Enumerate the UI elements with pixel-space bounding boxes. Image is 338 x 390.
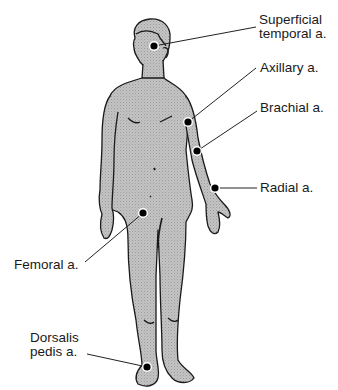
- label-axillary: Axillary a.: [260, 61, 319, 75]
- pulse-points-diagram: Superficial temporal a. Axillary a. Brac…: [0, 0, 338, 390]
- label-text: Brachial a.: [260, 101, 324, 115]
- leader-dorsalis-pedis: [87, 354, 147, 367]
- leader-axillary: [188, 68, 256, 122]
- label-text: Axillary a.: [260, 61, 319, 75]
- label-text: Radial a.: [260, 181, 313, 195]
- arm-right: [186, 96, 230, 234]
- label-text: Superficial: [259, 13, 327, 27]
- body-silhouette: [99, 19, 230, 386]
- label-text: pedis a.: [30, 345, 79, 359]
- dot-dorsalis-pedis: [142, 362, 152, 372]
- label-femoral: Femoral a.: [14, 258, 79, 272]
- label-radial: Radial a.: [260, 181, 313, 195]
- dot-brachial: [192, 146, 202, 156]
- label-text: Dorsalis: [30, 331, 79, 345]
- dot-radial: [210, 183, 220, 193]
- label-text: Femoral a.: [14, 258, 79, 272]
- label-superficial-temporal: Superficial temporal a.: [259, 13, 327, 41]
- dot-axillary: [183, 117, 193, 127]
- dot-superficial-temporal: [149, 41, 159, 51]
- leader-brachial: [197, 111, 257, 151]
- label-dorsalis-pedis: Dorsalis pedis a.: [30, 331, 79, 359]
- dot-femoral: [138, 208, 148, 218]
- label-text: temporal a.: [259, 27, 327, 41]
- label-brachial: Brachial a.: [260, 101, 324, 115]
